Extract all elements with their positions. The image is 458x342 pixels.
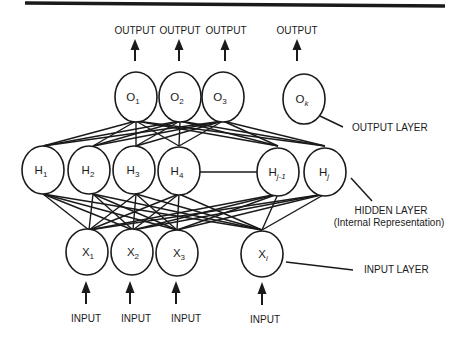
neural-network-diagram: OUTPUT OUTPUT OUTPUT OUTPUT O1 O2 O3 Ok … — [0, 0, 458, 342]
output-label: OUTPUT — [159, 25, 200, 36]
input-label: INPUT — [250, 314, 280, 325]
output-arrows — [131, 39, 302, 61]
hidden-layer-sublabel: (Internal Representation) — [334, 217, 445, 228]
input-to-hidden-connections — [43, 194, 325, 230]
input-arrow-icon — [258, 282, 267, 305]
output-arrow-icon — [175, 39, 184, 61]
input-arrow-icon — [172, 281, 181, 304]
input-layer-label: INPUT LAYER — [364, 264, 429, 275]
hidden-layer-pointer — [351, 178, 372, 201]
hidden-layer-nodes — [22, 146, 346, 196]
output-arrow-icon — [221, 39, 230, 61]
output-layer-pointer — [320, 116, 343, 127]
output-label: OUTPUT — [114, 25, 155, 36]
input-arrow-icon — [82, 281, 91, 304]
input-layer-pointer — [286, 262, 353, 270]
input-arrows — [82, 281, 267, 305]
output-arrow-icon — [131, 39, 140, 61]
top-rule-divider — [25, 3, 445, 6]
input-arrow-icon — [126, 281, 135, 304]
input-label: INPUT — [121, 313, 151, 324]
hidden-layer-label: HIDDEN LAYER — [354, 205, 427, 216]
input-label: INPUT — [171, 313, 201, 324]
input-label: INPUT — [71, 313, 101, 324]
output-label: OUTPUT — [205, 25, 246, 36]
output-layer-label: OUTPUT LAYER — [352, 122, 428, 133]
output-label: OUTPUT — [276, 25, 317, 36]
output-arrow-icon — [293, 39, 302, 61]
hidden-to-output-connections — [43, 121, 325, 146]
